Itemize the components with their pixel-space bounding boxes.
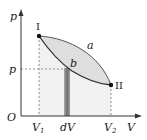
y-axis-label: p — [10, 10, 17, 23]
v1-label: V1 — [32, 121, 44, 135]
point-II-label: II — [115, 80, 123, 91]
x-axis-label: V — [127, 121, 136, 134]
dv-strip — [64, 68, 70, 116]
dv-label: dV — [60, 121, 76, 134]
curve-a-label: a — [87, 39, 94, 52]
point-I — [37, 34, 41, 38]
point-II — [109, 83, 113, 87]
v2-label: V2 — [104, 121, 117, 135]
x-axis-arrow-icon — [135, 114, 142, 119]
origin-label: O — [7, 111, 16, 124]
point-I-label: I — [36, 21, 40, 32]
pressure-label: p — [9, 63, 16, 76]
y-axis-arrow-icon — [19, 9, 24, 16]
pv-diagram: p I a p b II O V1 dV V2 V — [0, 0, 147, 140]
curve-b-label: b — [70, 57, 77, 70]
